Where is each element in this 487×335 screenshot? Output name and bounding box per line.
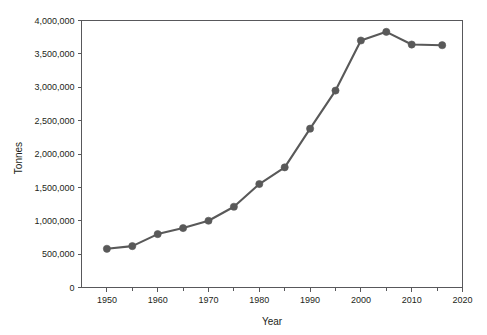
data-point-marker [357, 37, 364, 44]
y-axis-tick-label: 2,000,000 [34, 149, 74, 159]
y-axis-tick-label: 500,000 [42, 249, 75, 259]
x-axis-tick-label: 1960 [148, 295, 168, 305]
x-axis-tick-label-group: 19501960197019801990200020102020 [97, 295, 473, 305]
y-axis-tick-label-group: 0500,0001,000,0001,500,0002,000,0002,500… [34, 16, 74, 293]
data-point-marker [332, 87, 339, 94]
data-point-marker [205, 217, 212, 224]
x-axis-tick-label: 1970 [198, 295, 218, 305]
data-line-tonnes [107, 32, 442, 249]
data-point-marker [408, 41, 415, 48]
x-axis-tick-label: 2020 [452, 295, 472, 305]
y-axis-tick-label: 0 [69, 283, 74, 293]
y-axis-tick-label: 1,500,000 [34, 183, 74, 193]
data-point-marker [230, 203, 237, 210]
y-axis-tick-label: 3,000,000 [34, 82, 74, 92]
line-chart-figure: 0500,0001,000,0001,500,0002,000,0002,500… [0, 0, 487, 335]
data-point-marker [180, 224, 187, 231]
data-point-marker [103, 245, 110, 252]
y-axis-title: Tonnes [13, 142, 24, 174]
x-axis-title: Year [262, 316, 283, 327]
y-axis-tick-label: 3,500,000 [34, 49, 74, 59]
x-axis-tick-label: 2010 [402, 295, 422, 305]
y-axis-tick-label: 2,500,000 [34, 116, 74, 126]
data-point-marker [129, 243, 136, 250]
data-point-marker [383, 28, 390, 35]
x-axis-tick-label: 1950 [97, 295, 117, 305]
x-axis-tick-label: 1980 [249, 295, 269, 305]
chart-canvas: 0500,0001,000,0001,500,0002,000,0002,500… [0, 0, 487, 335]
y-axis-tick-label: 1,000,000 [34, 216, 74, 226]
data-point-marker-group [103, 28, 445, 252]
data-point-marker [281, 164, 288, 171]
plot-frame [82, 21, 463, 288]
tick-mark-group [78, 21, 463, 293]
data-point-marker [439, 42, 446, 49]
data-point-marker [154, 231, 161, 238]
data-point-marker [307, 125, 314, 132]
x-axis-tick-label: 2000 [351, 295, 371, 305]
x-axis-tick-label: 1990 [300, 295, 320, 305]
y-axis-tick-label: 4,000,000 [34, 16, 74, 26]
data-point-marker [256, 180, 263, 187]
